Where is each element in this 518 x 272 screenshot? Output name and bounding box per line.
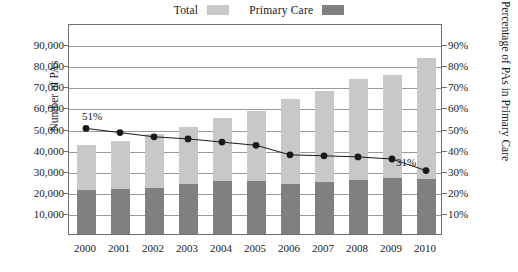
y-axis-tick-label-left: 20,000: [8, 188, 64, 199]
y-axis-tick-label-right: 20%: [448, 188, 488, 199]
legend-swatch-total: [207, 5, 229, 15]
right-axis-title: Percentage of PAs in Primary Care: [500, 0, 512, 181]
y-axis-tick-label-right: 60%: [448, 103, 488, 114]
chart-legend: Total Primary Care: [0, 4, 518, 16]
line-data-point: [355, 154, 362, 161]
line-data-point: [117, 129, 124, 136]
y-axis-tick-label-left: 10,000: [8, 209, 64, 220]
y-axis-tick-label-left: 40,000: [8, 146, 64, 157]
line-data-point: [321, 152, 328, 159]
y-axis-tick-label-left: 30,000: [8, 167, 64, 178]
y-axis-tick-label-left: 80,000: [8, 61, 64, 72]
y-axis-tick-label-right: 90%: [448, 40, 488, 51]
data-point-annotation: 31%: [396, 157, 416, 168]
y-axis-tick-label-left: 90,000: [8, 40, 64, 51]
line-data-point: [423, 167, 430, 174]
legend-label-primary-care: Primary Care: [249, 4, 313, 16]
legend-swatch-primary-care: [322, 5, 344, 15]
line-data-point: [219, 139, 226, 146]
plot-area: 51%31%: [68, 24, 442, 235]
left-axis-title: Number of PAs: [48, 36, 60, 156]
line-data-point: [151, 133, 158, 140]
y-axis-tick-label-right: 70%: [448, 82, 488, 93]
line-data-point: [253, 142, 260, 149]
y-axis-tick-label-right: 40%: [448, 146, 488, 157]
y-axis-tick-label-left: 70,000: [8, 82, 64, 93]
pa-workforce-chart: Total Primary Care Number of PAs Percent…: [0, 0, 518, 272]
y-axis-tick-label-right: 50%: [448, 125, 488, 136]
line-data-point: [287, 151, 294, 158]
line-data-point: [185, 136, 192, 143]
legend-entry-primary-care: Primary Care: [249, 4, 344, 16]
y-axis-tick-label-left: 50,000: [8, 125, 64, 136]
x-axis-tick-label: 2010: [405, 243, 445, 254]
percentage-line-layer: [69, 25, 443, 236]
y-axis-tick-label-left: 60,000: [8, 103, 64, 114]
line-data-point: [83, 125, 90, 132]
data-point-annotation: 51%: [82, 111, 102, 122]
line-data-point: [389, 156, 396, 163]
legend-label-total: Total: [174, 4, 198, 16]
legend-entry-total: Total: [174, 4, 249, 16]
percentage-line: [86, 128, 426, 170]
y-axis-tick-label-right: 80%: [448, 61, 488, 72]
y-axis-tick-label-right: 30%: [448, 167, 488, 178]
y-axis-tick-label-right: 10%: [448, 209, 488, 220]
